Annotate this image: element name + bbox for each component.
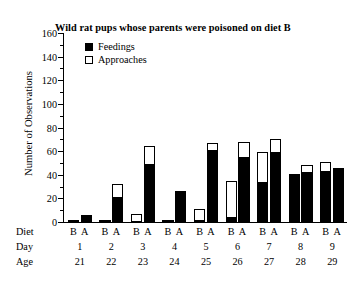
x-axis-row-day: Day 123456789 [0, 241, 359, 256]
y-tick-minor [60, 163, 63, 164]
x-label-diet-7: B A [259, 226, 279, 237]
y-tick-label: 60 [47, 146, 57, 157]
x-label-age-6: 26 [232, 256, 242, 267]
y-tick-major [58, 57, 63, 58]
bar-segment-feedings [131, 221, 142, 222]
legend-item-feedings: Feedings [85, 40, 147, 53]
y-tick-major [58, 128, 63, 129]
x-label-day-7: 7 [267, 241, 272, 252]
y-axis-line [63, 33, 64, 222]
x-label-diet-8: B A [291, 226, 311, 237]
bar-day-3-diet-A [144, 146, 155, 222]
y-tick-major [58, 175, 63, 176]
x-label-day-4: 4 [172, 241, 177, 252]
bar-segment-feedings [162, 220, 173, 222]
x-label-age-5: 25 [201, 256, 211, 267]
x-label-age-2: 22 [106, 256, 116, 267]
bar-segment-feedings [238, 157, 249, 222]
x-axis-row-age: Age 212223242526272829 [0, 256, 359, 271]
x-label-day-3: 3 [140, 241, 145, 252]
y-tick-major [58, 198, 63, 199]
bar-segment-approaches [226, 181, 237, 222]
y-tick-major [58, 151, 63, 152]
y-tick-major [58, 80, 63, 81]
y-tick-label: 20 [47, 193, 57, 204]
x-label-day-6: 6 [235, 241, 240, 252]
plot-area: 020406080100120140160 Feedings Approache… [63, 33, 347, 222]
y-tick-minor [60, 139, 63, 140]
y-tick-label: 140 [42, 51, 57, 62]
x-label-diet-3: B A [133, 226, 153, 237]
bar-day-7-diet-B [257, 152, 268, 222]
x-label-age-3: 23 [138, 256, 148, 267]
x-axis-row-diet: Diet B AB AB AB AB AB AB AB AB A [0, 226, 359, 241]
bar-day-3-diet-B [131, 214, 142, 222]
bar-segment-feedings [68, 220, 79, 222]
x-axis-line [63, 222, 347, 223]
chart-container: Wild rat pups whose parents were poisone… [0, 0, 359, 282]
bar-segment-feedings [99, 220, 110, 222]
chart-legend: Feedings Approaches [85, 40, 147, 66]
y-tick-minor [60, 68, 63, 69]
bar-segment-feedings [81, 215, 92, 222]
y-tick-major [58, 222, 63, 223]
y-tick-minor [60, 116, 63, 117]
bar-day-6-diet-A [238, 142, 249, 222]
x-label-day-1: 1 [77, 241, 82, 252]
bar-segment-feedings [175, 191, 186, 222]
y-axis-label: Number of Observations [23, 34, 34, 214]
x-label-age-9: 29 [327, 256, 337, 267]
x-label-diet-4: B A [165, 226, 185, 237]
y-tick-minor [60, 45, 63, 46]
x-label-age-7: 27 [264, 256, 274, 267]
y-tick-minor [60, 92, 63, 93]
row-label-diet: Diet [16, 226, 34, 237]
x-label-day-2: 2 [109, 241, 114, 252]
bar-segment-feedings [194, 220, 205, 222]
bar-segment-feedings [144, 164, 155, 222]
bar-segment-feedings [112, 197, 123, 222]
bar-day-9-diet-A [333, 168, 344, 222]
bar-day-7-diet-A [270, 139, 281, 222]
bar-segment-feedings [257, 182, 268, 222]
bar-segment-feedings [320, 171, 331, 222]
y-tick-label: 80 [47, 122, 57, 133]
legend-label-feedings: Feedings [98, 42, 135, 52]
bar-day-8-diet-A [301, 165, 312, 222]
row-label-day: Day [16, 241, 33, 252]
x-label-day-8: 8 [298, 241, 303, 252]
legend-swatch-feedings-icon [85, 43, 93, 51]
bar-segment-feedings [270, 152, 281, 222]
legend-label-approaches: Approaches [98, 55, 147, 65]
bar-segment-feedings [226, 217, 237, 222]
x-label-diet-9: B A [322, 226, 342, 237]
bar-day-4-diet-A [175, 191, 186, 222]
y-tick-label: 160 [42, 28, 57, 39]
bar-day-1-diet-A [81, 215, 92, 222]
x-label-age-8: 28 [296, 256, 306, 267]
bar-segment-feedings [207, 150, 218, 222]
x-label-diet-6: B A [228, 226, 248, 237]
x-label-diet-5: B A [196, 226, 216, 237]
bar-segment-feedings [301, 172, 312, 222]
y-tick-minor [60, 187, 63, 188]
y-tick-label: 120 [42, 75, 57, 86]
x-label-age-4: 24 [169, 256, 179, 267]
bar-day-1-diet-B [68, 220, 79, 222]
legend-item-approaches: Approaches [85, 53, 147, 66]
bar-segment-feedings [289, 175, 300, 222]
bar-day-4-diet-B [162, 220, 173, 222]
y-tick-label: 100 [42, 98, 57, 109]
bar-day-6-diet-B [226, 181, 237, 222]
bar-day-2-diet-A [112, 184, 123, 222]
x-label-diet-1: B A [70, 226, 90, 237]
bar-day-8-diet-B [289, 174, 300, 222]
x-label-day-5: 5 [203, 241, 208, 252]
x-label-age-1: 21 [75, 256, 85, 267]
y-tick-minor [60, 210, 63, 211]
legend-swatch-approaches-icon [85, 56, 93, 64]
y-tick-major [58, 104, 63, 105]
bar-day-9-diet-B [320, 162, 331, 222]
bar-day-2-diet-B [99, 220, 110, 222]
x-label-diet-2: B A [101, 226, 121, 237]
